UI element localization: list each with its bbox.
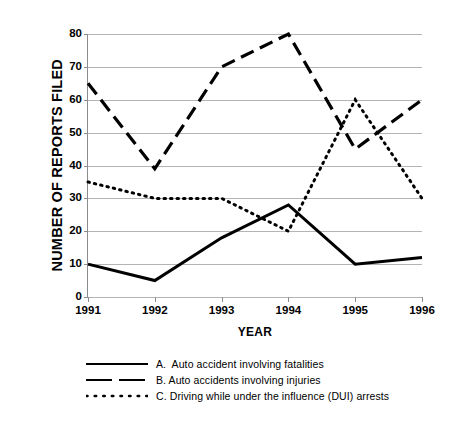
x-tick-label: 1995: [342, 305, 368, 317]
plot-area: 01020304050607080 1991199219931994199519…: [88, 34, 422, 297]
y-tick-label: 10: [69, 258, 82, 270]
legend-item: A. Auto accident involving fatalities: [86, 356, 416, 372]
y-tick-label: 60: [69, 94, 82, 106]
legend-item: C. Driving while under the influence (DU…: [86, 388, 416, 404]
x-tick-label: 1993: [209, 305, 235, 317]
legend-label: C. Driving while under the influence (DU…: [156, 391, 389, 402]
solid-line-sample: [86, 358, 148, 370]
dotted-line-sample: [86, 390, 148, 402]
legend-item: B. Auto accidents involving injuries: [86, 372, 416, 388]
y-tick-label: 70: [69, 61, 82, 73]
x-tick-label: 1991: [75, 305, 101, 317]
series-line-a: [88, 205, 422, 281]
x-axis-title: YEAR: [88, 325, 422, 339]
x-tick-mark: [155, 297, 156, 302]
x-tick-mark: [422, 297, 423, 302]
chart-legend: A. Auto accident involving fatalitiesB. …: [86, 356, 416, 404]
y-tick-label: 30: [69, 193, 82, 205]
series-line-c: [88, 100, 422, 232]
x-tick-mark: [222, 297, 223, 302]
y-tick-label: 80: [69, 28, 82, 40]
x-tick-mark: [88, 297, 89, 302]
grid-line: [88, 297, 422, 298]
legend-label: A. Auto accident involving fatalities: [156, 359, 324, 370]
legend-label: B. Auto accidents involving injuries: [156, 375, 321, 386]
y-tick-label: 40: [69, 160, 82, 172]
x-tick-label: 1996: [409, 305, 435, 317]
x-tick-mark: [355, 297, 356, 302]
line-chart: NUMBER OF REPORTS FILED 0102030405060708…: [0, 0, 454, 425]
y-tick-label: 50: [69, 127, 82, 139]
x-tick-label: 1992: [142, 305, 168, 317]
x-tick-label: 1994: [276, 305, 302, 317]
series-line-b: [88, 34, 422, 169]
y-tick-label: 20: [69, 226, 82, 238]
dashed-line-sample: [86, 374, 148, 386]
y-axis-title: NUMBER OF REPORTS FILED: [50, 30, 65, 300]
series-layer: [88, 34, 422, 297]
y-tick-label: 0: [76, 291, 82, 303]
x-tick-mark: [288, 297, 289, 302]
